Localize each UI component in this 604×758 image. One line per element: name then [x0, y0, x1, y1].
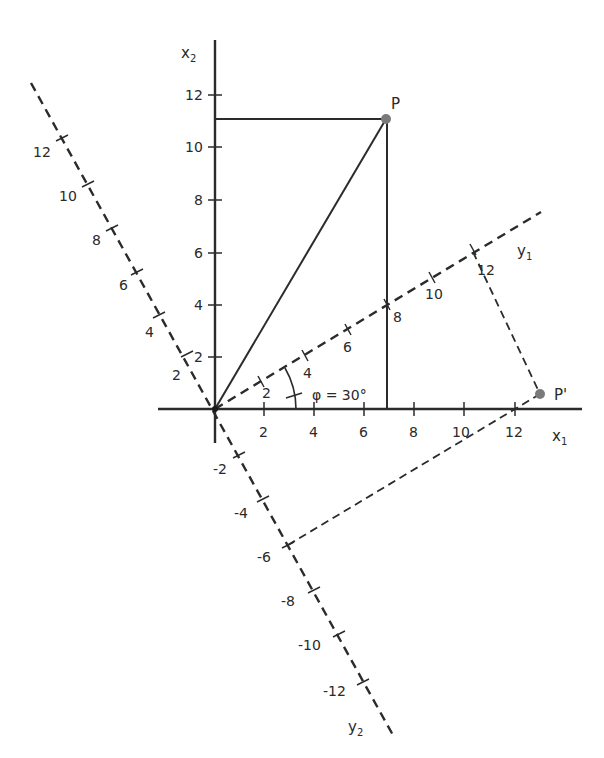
svg-text:4: 4	[194, 297, 203, 313]
y2-tick-labels-negative: -2 -4 -6 -8 -10 -12	[213, 461, 346, 699]
svg-text:2: 2	[194, 349, 203, 365]
p-prime-projection-y2	[288, 394, 540, 545]
svg-text:-2: -2	[213, 461, 227, 477]
x2-axis-label: x2	[181, 44, 196, 64]
svg-text:10: 10	[425, 286, 443, 302]
svg-text:12: 12	[185, 87, 203, 103]
svg-text:6: 6	[194, 245, 203, 261]
angle-arc	[285, 368, 296, 409]
svg-text:12: 12	[505, 424, 523, 440]
svg-text:-10: -10	[298, 637, 321, 653]
svg-text:4: 4	[303, 365, 312, 381]
svg-text:12: 12	[477, 262, 495, 278]
x1-tick-labels: 2 4 6 8 10 12	[259, 424, 523, 440]
svg-text:2: 2	[172, 367, 181, 383]
svg-text:8: 8	[409, 424, 418, 440]
svg-text:4: 4	[309, 424, 318, 440]
svg-text:2: 2	[259, 424, 268, 440]
svg-text:10: 10	[185, 139, 203, 155]
angle-label: φ = 30°	[312, 387, 367, 403]
y1-ticks	[258, 244, 476, 387]
y2-axis-label: y2	[348, 718, 363, 738]
position-vector-op	[215, 119, 386, 409]
svg-text:-12: -12	[323, 683, 346, 699]
point-p-prime-label: P'	[554, 386, 567, 404]
svg-text:6: 6	[119, 277, 128, 293]
point-p-prime	[535, 389, 545, 399]
origin-point	[212, 406, 218, 412]
svg-text:8: 8	[194, 192, 203, 208]
svg-text:10: 10	[59, 188, 77, 204]
x1-axis-label: x1	[552, 427, 567, 447]
svg-text:6: 6	[343, 339, 352, 355]
svg-text:6: 6	[359, 424, 368, 440]
y1-tick-labels: 2 4 6 8 10 12	[262, 262, 495, 401]
svg-text:-6: -6	[257, 549, 271, 565]
svg-text:-8: -8	[281, 593, 295, 609]
x2-tick-labels: 2 4 6 8 10 12	[185, 87, 203, 365]
diagram-canvas: x2 x1 y1 y2 P P' φ = 30° 2 4 6 8 10 12 2…	[0, 0, 604, 758]
svg-text:8: 8	[393, 309, 402, 325]
svg-text:12: 12	[33, 144, 51, 160]
svg-text:10: 10	[452, 424, 470, 440]
y2-tick-labels-positive: 2 4 6 8 10 12	[33, 144, 181, 383]
svg-text:8: 8	[92, 232, 101, 248]
y1-axis-label: y1	[517, 242, 532, 262]
point-p-label: P	[391, 95, 400, 113]
svg-text:-4: -4	[234, 505, 248, 521]
rotation-diagram: x2 x1 y1 y2 P P' φ = 30° 2 4 6 8 10 12 2…	[0, 0, 604, 758]
y1-axis	[215, 212, 541, 409]
svg-text:2: 2	[262, 385, 271, 401]
point-p	[381, 114, 391, 124]
svg-text:4: 4	[145, 324, 154, 340]
